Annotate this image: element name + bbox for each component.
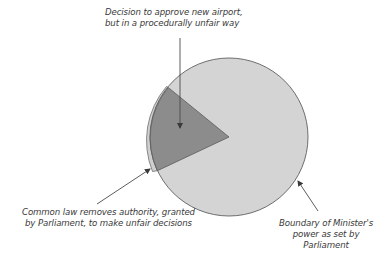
boundary-label: Boundary of Minister's power as set by P… bbox=[279, 218, 373, 251]
common-law-label: Common law removes authority, granted by… bbox=[22, 207, 195, 229]
boundary-label-line-3: Parliament bbox=[279, 240, 373, 251]
boundary-label-line-1: Boundary of Minister's bbox=[279, 218, 373, 229]
decision-label-line-2: but in a procedurally unfair way bbox=[105, 18, 243, 29]
common-law-arrow bbox=[97, 169, 150, 204]
decision-label-line-1: Decision to approve new airport, bbox=[105, 7, 243, 18]
boundary-arrow bbox=[298, 181, 318, 211]
decision-label: Decision to approve new airport, but in … bbox=[105, 7, 243, 29]
common-law-label-line-2: by Parliament, to make unfair decisions bbox=[22, 218, 195, 229]
boundary-label-line-2: power as set by bbox=[279, 229, 373, 240]
common-law-label-line-1: Common law removes authority, granted bbox=[22, 207, 195, 218]
